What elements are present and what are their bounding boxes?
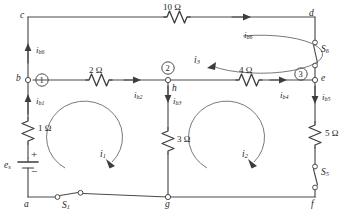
current-ib5-subscript: b5	[325, 96, 331, 102]
branch-e-f	[309, 80, 321, 197]
mesh-current-label-i3: i3	[194, 56, 200, 66]
mesh-loop-i3	[207, 35, 323, 73]
current-arrow-ib4	[279, 77, 287, 84]
node-label-d: d	[309, 9, 314, 19]
current-label-ib6-top: ib6	[244, 31, 253, 40]
resistor-label-2ohm: 2 Ω	[89, 66, 102, 75]
resistor-2ohm-symbol	[86, 74, 112, 86]
mesh-loop-i2-arc	[189, 101, 265, 168]
current-label-ib4: ib4	[280, 91, 289, 100]
mesh-loop-i3-arc	[212, 35, 323, 73]
branch-h-e	[168, 74, 315, 86]
node-label-c: c	[20, 11, 24, 21]
current-arrow-ib3	[165, 95, 172, 103]
branch-d-e	[313, 17, 318, 80]
node-label-b: b	[16, 74, 21, 84]
switch-s5-subscript: 5	[326, 170, 329, 177]
current-arrow-ib2	[133, 77, 141, 84]
switch-s6-subscript: 6	[326, 47, 329, 54]
node-label-e: e	[321, 74, 325, 84]
switch-label-s1: S1	[62, 201, 70, 211]
current-arrow-ib1	[25, 94, 32, 102]
current-label-ib5: ib5	[322, 93, 331, 102]
current-ib4-subscript: b4	[283, 94, 289, 100]
source-label-es: es	[4, 161, 11, 171]
current-label-ib2: ib2	[134, 91, 143, 100]
branch-b-c	[25, 17, 32, 80]
mesh-loop-i1-arc	[47, 101, 123, 168]
source-plus-sign: +	[31, 149, 37, 160]
current-label-ib3: ib3	[173, 97, 182, 106]
current-label-ib6-left: ib6	[36, 46, 45, 55]
branch-a-b	[18, 80, 38, 197]
resistor-10ohm-symbol	[164, 11, 190, 23]
node-marker-b	[25, 77, 30, 82]
switch-s5-terminal-top[interactable]	[313, 164, 318, 169]
resistor-1ohm-symbol	[22, 118, 34, 144]
resistor-4ohm-symbol	[236, 74, 262, 86]
source-minus-sign: −	[31, 166, 37, 177]
wire-s1-to-g	[83, 194, 168, 198]
mesh-loop-i3-arrowhead	[207, 62, 216, 70]
switch-label-s5: S5	[321, 168, 329, 178]
resistor-label-1ohm: 1 Ω	[38, 124, 51, 133]
switch-s5-blade[interactable]	[314, 169, 318, 185]
node-number-label-3: 3	[299, 70, 303, 79]
current-label-ib1: ib1	[36, 97, 45, 106]
current-ib6-top-subscript: b6	[247, 34, 253, 40]
switch-s1-terminal-right[interactable]	[78, 190, 83, 195]
resistor-label-10ohm: 10 Ω	[163, 3, 181, 12]
current-ib2-subscript: b2	[137, 94, 143, 100]
resistor-3ohm-symbol	[162, 128, 174, 154]
circuit-diagram-canvas: c d b e h a g f 1 2 3 10 Ω 2 Ω 4 Ω 3 Ω 1…	[0, 0, 350, 215]
switch-s1-blade[interactable]	[60, 193, 78, 196]
source-label-subscript: s	[8, 163, 10, 170]
mesh-i3-subscript: 3	[197, 58, 200, 65]
switch-s1-subscript: 1	[67, 203, 70, 210]
current-arrow-ib5	[312, 96, 319, 104]
resistor-label-4ohm: 4 Ω	[239, 66, 252, 75]
current-ib3-subscript: b3	[176, 100, 182, 106]
current-ib1-subscript: b1	[39, 100, 45, 106]
switch-s6-blade[interactable]	[314, 45, 318, 63]
circuit-schematic-svg	[0, 0, 350, 215]
branch-b-h	[33, 74, 168, 86]
switch-s5-terminal-bottom[interactable]	[313, 185, 318, 190]
current-arrow-ib6-top	[243, 14, 251, 21]
mesh-current-label-i2: i2	[242, 150, 248, 160]
resistor-label-5ohm: 5 Ω	[325, 129, 338, 138]
resistor-label-3ohm: 3 Ω	[177, 135, 190, 144]
switch-s1-terminal-left[interactable]	[55, 195, 60, 200]
resistor-5ohm-symbol	[309, 122, 321, 148]
node-label-f: f	[311, 200, 314, 210]
node-number-label-1: 1	[40, 76, 44, 85]
node-marker-h	[165, 77, 170, 82]
mesh-loop-i2	[189, 101, 265, 168]
mesh-i1-subscript: 1	[103, 152, 106, 159]
branch-a-g-f	[28, 190, 315, 199]
branch-c-d	[28, 11, 315, 23]
switch-label-s6: S6	[321, 45, 329, 55]
mesh-i2-subscript: 2	[245, 152, 248, 159]
mesh-loop-i1	[47, 101, 123, 168]
node-number-label-2: 2	[166, 64, 170, 73]
mesh-current-label-i1: i1	[100, 150, 106, 160]
node-label-h: h	[172, 84, 177, 94]
node-label-a: a	[24, 200, 29, 210]
current-arrow-ib6-left	[25, 43, 32, 51]
current-ib6-left-subscript: b6	[39, 49, 45, 55]
node-label-g: g	[165, 200, 170, 210]
node-marker-e	[312, 77, 317, 82]
